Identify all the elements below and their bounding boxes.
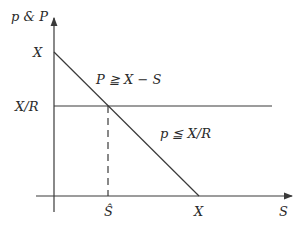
y-tick-x-over-r: X/R [15, 100, 38, 113]
x-tick-x: X [194, 205, 203, 218]
diagram-canvas [0, 0, 299, 230]
x-axis-label: S [279, 205, 288, 218]
annotation-lower-bound: p ≦ X/R [160, 127, 211, 140]
y-tick-x: X [33, 46, 42, 59]
x-tick-s-hat: Ŝ [104, 205, 113, 218]
y-axis-label: p & P [11, 10, 48, 23]
annotation-upper-bound: P ≧ X − S [96, 73, 161, 86]
